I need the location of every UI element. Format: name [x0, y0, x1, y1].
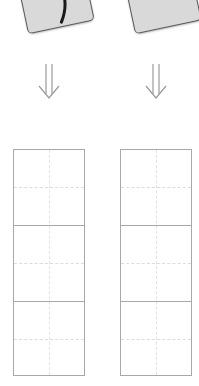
row-divider	[14, 225, 84, 226]
horizontal-guide	[121, 187, 191, 188]
writing-grid-right	[120, 149, 192, 376]
character-card-left	[13, 0, 94, 34]
horizontal-guide	[14, 339, 84, 340]
practice-sheet	[0, 0, 199, 386]
horizontal-guide	[121, 339, 191, 340]
row-divider	[14, 301, 84, 302]
double-down-arrow-icon	[37, 64, 61, 100]
double-down-arrow-icon	[144, 64, 168, 100]
character-card-right	[120, 0, 199, 34]
brush-stroke-icon	[14, 0, 93, 33]
row-divider	[121, 301, 191, 302]
horizontal-guide	[14, 187, 84, 188]
row-divider	[121, 225, 191, 226]
writing-grid-left	[13, 149, 85, 376]
horizontal-guide	[14, 263, 84, 264]
horizontal-guide	[121, 263, 191, 264]
